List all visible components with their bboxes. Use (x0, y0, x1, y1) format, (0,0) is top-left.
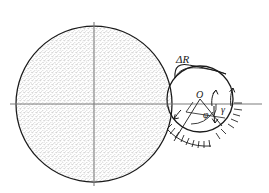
diagram-svg (0, 0, 269, 193)
label-angle-phi: φ (203, 110, 209, 120)
label-angle-gamma: γ (221, 105, 225, 115)
label-center-o: O (196, 90, 203, 100)
label-delta-r: ΔR (176, 54, 189, 65)
figure-canvas: ΔR O φ γ (0, 0, 269, 193)
